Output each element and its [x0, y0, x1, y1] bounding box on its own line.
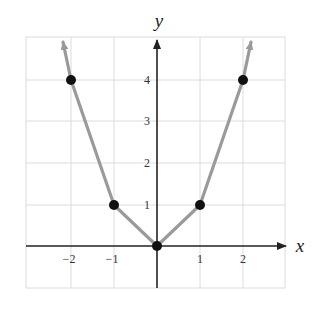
- y-tick-label: 2: [144, 156, 150, 170]
- y-tick-labels: 1 2 3 4: [144, 73, 150, 212]
- x-tick-label: −1: [106, 252, 119, 266]
- y-tick-label: 1: [144, 198, 150, 212]
- y-tick-label: 4: [144, 73, 150, 87]
- x-tick-label: −2: [63, 252, 76, 266]
- point-neg1-1: [109, 200, 119, 210]
- x-tick-labels: −2 −1 1 2: [63, 252, 246, 266]
- chart: −2 −1 1 2 1 2 3 4 x y: [0, 0, 312, 318]
- point-0-0: [152, 241, 162, 251]
- point-neg2-4: [66, 75, 76, 85]
- y-tick-label: 3: [144, 114, 150, 128]
- point-2-4: [238, 75, 248, 85]
- y-axis-label: y: [153, 10, 164, 31]
- point-1-1: [195, 200, 205, 210]
- x-tick-label: 1: [197, 252, 203, 266]
- x-tick-label: 2: [240, 252, 246, 266]
- x-axis-label: x: [295, 235, 305, 256]
